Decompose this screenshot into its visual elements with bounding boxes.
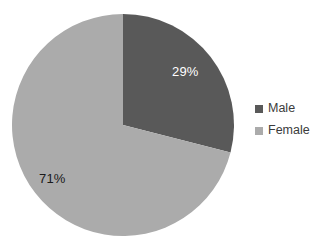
legend-label-female: Female (268, 123, 310, 138)
pie-slice-label-female: 71% (39, 171, 66, 186)
legend-item-male[interactable]: Male (255, 101, 310, 116)
pie-slice-label-male: 29% (172, 64, 199, 79)
square-swatch-icon (255, 105, 263, 113)
pie-plot-area: 29% 71% (0, 0, 249, 249)
square-swatch-icon (255, 127, 263, 135)
legend-item-female[interactable]: Female (255, 123, 310, 138)
pie-svg (0, 0, 249, 249)
pie-chart-figure: 29% 71% Male Female (0, 0, 327, 249)
chart-legend: Male Female (255, 101, 310, 138)
legend-label-male: Male (268, 101, 295, 116)
